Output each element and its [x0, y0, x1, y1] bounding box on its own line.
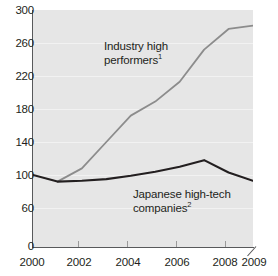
y-tick-label-220: 220: [0, 71, 34, 82]
annotation-industry-high-performers: Industry high performers1: [104, 40, 168, 67]
y-tick-label-140: 140: [0, 137, 34, 148]
y-tick-label-0: 0: [0, 241, 34, 252]
y-tick-label-60: 60: [0, 203, 34, 214]
line-japanese-high-tech-companies: [33, 160, 253, 181]
annotation-japanese-high-tech-companies: Japanese high-tech companies2: [133, 188, 231, 215]
annotation-japanese-line2-text: companies: [133, 202, 187, 214]
x-tick-label-2002: 2002: [56, 257, 102, 268]
x-tick-label-2000: 2000: [9, 257, 55, 268]
x-tick-mark-2006: [176, 241, 177, 247]
x-tick-label-2009: 2009: [231, 257, 277, 268]
y-tick-label-260: 260: [0, 38, 34, 49]
y-tick-label-100: 100: [0, 170, 34, 181]
x-tick-mark-2008: [225, 241, 226, 247]
x-tick-label-2006: 2006: [154, 257, 200, 268]
annotation-japanese-line1: Japanese high-tech: [133, 188, 231, 202]
x-tick-mark-2004: [127, 241, 128, 247]
chart-container: 300 260 220 180 140 100 60 0 2000 2002 2…: [0, 0, 278, 276]
annotation-industry-line2-text: performers: [104, 54, 158, 66]
x-tick-mark-2002: [78, 241, 79, 247]
y-tick-label-300: 300: [0, 5, 34, 16]
annotation-industry-line2: performers1: [104, 54, 168, 68]
annotation-japanese-footnote-marker: 2: [187, 200, 191, 209]
x-tick-label-2004: 2004: [105, 257, 151, 268]
annotation-industry-footnote-marker: 1: [158, 52, 162, 61]
annotation-japanese-line2: companies2: [133, 202, 231, 216]
x-axis-line: [32, 247, 254, 248]
y-tick-label-180: 180: [0, 104, 34, 115]
